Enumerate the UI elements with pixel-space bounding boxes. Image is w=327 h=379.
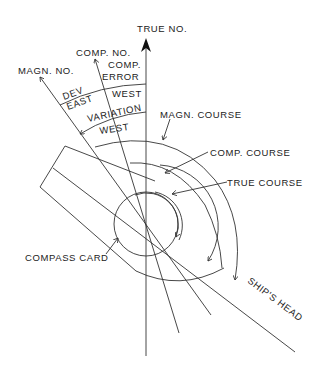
true-course-leader: [172, 182, 227, 194]
label-comp-error-2: ERROR: [102, 71, 139, 82]
magn-course-leader: [163, 119, 170, 140]
label-comp-course: COMP. COURSE: [210, 147, 290, 158]
comp-course-outer: [130, 163, 222, 268]
ship-hull-top: [65, 146, 155, 181]
label-comp-error-1: COMP.: [108, 59, 141, 70]
label-magn-course: MAGN. COURSE: [160, 109, 242, 120]
true-north-line: [141, 38, 151, 356]
label-true-north: TRUE NO.: [137, 23, 187, 34]
true-course-arc-inner: [155, 192, 182, 240]
label-compass-card: COMPASS CARD: [25, 252, 109, 263]
label-error-west: WEST: [112, 88, 142, 99]
true-course-arc: [135, 193, 178, 237]
label-ships-head: SHIP'S HEAD: [246, 275, 305, 323]
label-magn-north: MAGN. NO.: [18, 65, 74, 76]
label-variation-west: WEST: [99, 121, 130, 136]
compass-diagram: TRUE NO. COMP. NO. MAGN. NO. COMP. ERROR…: [0, 0, 327, 379]
label-comp-north: COMP. NO.: [76, 47, 131, 58]
label-true-course: TRUE COURSE: [227, 177, 303, 188]
